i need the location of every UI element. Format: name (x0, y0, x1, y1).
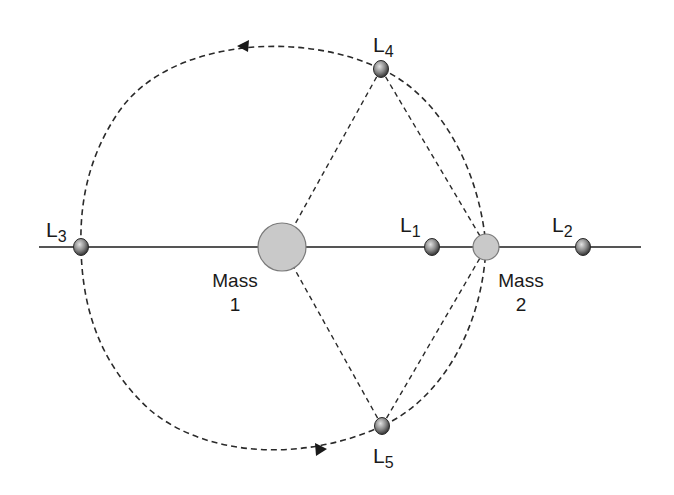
label-l5: L5 (373, 444, 394, 471)
point-l5 (375, 418, 390, 435)
point-l4 (374, 61, 389, 78)
point-l3 (74, 239, 89, 256)
point-l2 (576, 239, 591, 256)
mass-2-label-line2: 2 (516, 294, 527, 315)
arrow-left-icon (237, 40, 249, 52)
mass-1 (258, 223, 306, 271)
label-l3: L3 (46, 218, 67, 245)
l4-mass2-line (381, 69, 480, 236)
lagrange-diagram: L1 L2 L3 L4 L5 Mass 1 Mass 2 (0, 0, 674, 495)
l4-mass1-line (294, 69, 381, 226)
l5-mass1-line (294, 268, 382, 426)
mass-2-label-line1: Mass (498, 270, 543, 291)
label-l2: L2 (552, 213, 573, 240)
mass-2 (473, 234, 499, 260)
orbit-arc-left (81, 46, 382, 449)
l5-mass2-line (382, 258, 480, 426)
label-l4: L4 (373, 33, 394, 60)
mass-1-label-line2: 1 (230, 294, 241, 315)
label-l1: L1 (400, 213, 421, 240)
mass-1-label-line1: Mass (212, 270, 257, 291)
point-l1 (425, 239, 440, 256)
